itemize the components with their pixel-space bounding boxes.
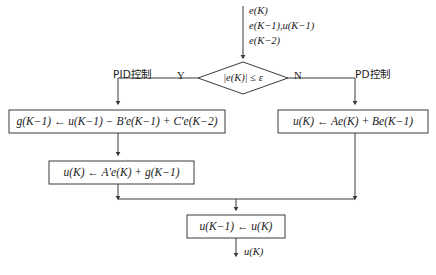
edge-no-branch	[288, 78, 355, 104]
pid-control-caption: PID控制	[113, 66, 152, 81]
node-pid-g-update-shape	[9, 110, 225, 133]
edge-yes-branch	[118, 78, 198, 104]
node-pid-u-update-shape	[49, 161, 194, 184]
decision-yes-label: Y	[177, 70, 185, 81]
node-shift-u-shape	[187, 215, 285, 238]
input-variable-stack: e(K) e(K−1),u(K−1) e(K−2)	[249, 3, 314, 49]
output-label: u(K)	[244, 245, 263, 258]
flowchart-canvas: e(K) e(K−1),u(K−1) e(K−2) PID控制 PD控制 Y N…	[0, 0, 436, 275]
decision-no-label: N	[294, 70, 302, 81]
decision-diamond-shape	[198, 62, 288, 94]
input-line-3: e(K−2)	[249, 33, 314, 48]
pd-control-caption: PD控制	[355, 66, 390, 81]
flowchart-graphics	[0, 0, 436, 275]
node-pd-u-update-shape	[278, 110, 428, 133]
input-line-1: e(K)	[249, 3, 314, 18]
input-line-2: e(K−1),u(K−1)	[249, 18, 314, 33]
